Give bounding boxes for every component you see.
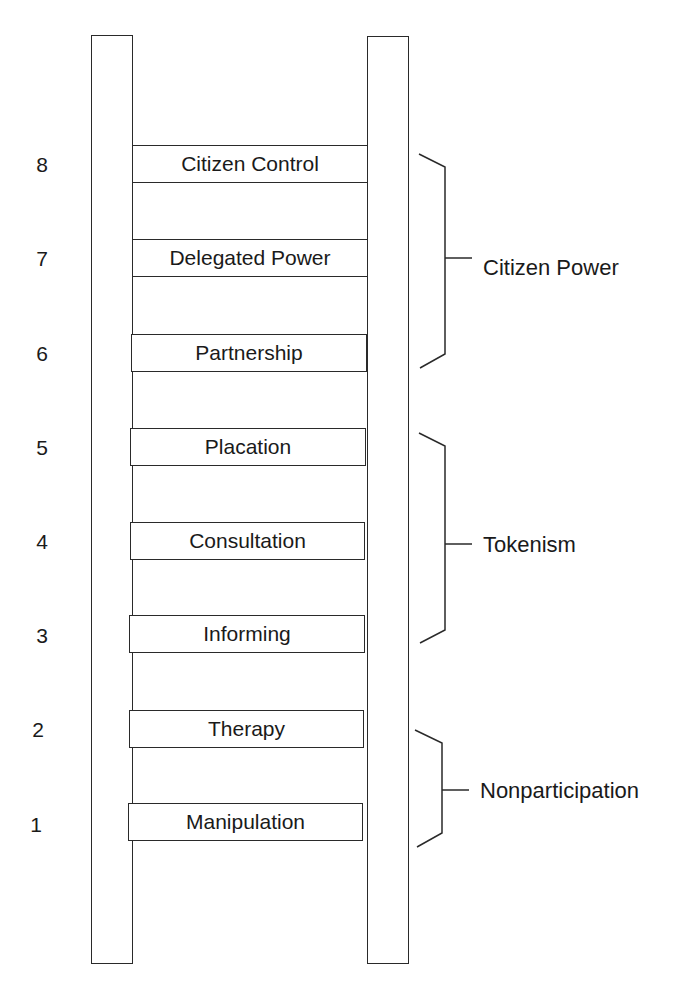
group-brackets: [0, 0, 694, 982]
bracket-nonparticipation: [415, 730, 442, 847]
group-label-citizen-power: Citizen Power: [483, 255, 619, 281]
group-label-tokenism: Tokenism: [483, 532, 576, 558]
bracket-tokenism: [419, 433, 445, 643]
bracket-citizen-power: [419, 154, 445, 368]
group-label-nonparticipation: Nonparticipation: [480, 778, 639, 804]
